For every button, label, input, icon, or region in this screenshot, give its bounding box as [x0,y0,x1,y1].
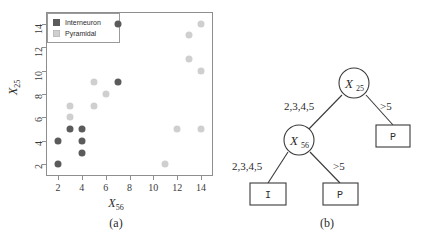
scatter-point [198,126,205,133]
scatter-point [186,55,193,62]
x-tick [106,176,107,180]
y-tick-label: 2 [33,164,44,169]
figure-container: X25 2468101214 2468101214 X56 Interneuro… [0,0,425,239]
scatter-point [78,137,85,144]
legend-item-pyramidal: Pyramidal [51,28,116,39]
tree-node-root-sub: 25 [356,84,364,93]
tree-node-root [339,68,369,98]
scatter-point [186,32,193,39]
edge-label-n2-right: >5 [333,160,345,172]
x-tick-label: 10 [148,182,158,193]
x-axis: 2468101214 [46,176,213,182]
legend-label: Interneuron [65,19,101,26]
scatter-point [66,126,73,133]
scatter-point [198,67,205,74]
edge-n2-to-leaf-i [268,152,288,183]
y-tick-label: 8 [33,94,44,99]
scatter-point [162,161,169,168]
x-tick-label: 12 [172,182,182,193]
x-axis-title: X56 [108,196,123,212]
legend-swatch-icon [53,30,60,37]
y-tick-label: 14 [33,24,44,34]
scatter-point [66,114,73,121]
scatter-point [114,20,121,27]
x-tick-label: 6 [103,182,108,193]
scatter-point [78,126,85,133]
scatter-point [198,20,205,27]
scatter-point [66,102,73,109]
scatter-point [54,161,61,168]
y-tick-label: 6 [33,117,44,122]
decision-tree-svg: X 25 X 56 P I P 2,3,4,5 >5 2,3,4,5 >5 [230,0,425,215]
panel-a-caption: (a) [109,216,122,231]
x-tick-label: 8 [127,182,132,193]
edge-label-root-right: >5 [380,100,392,112]
x-tick [130,176,131,180]
tree-node-n2 [284,125,314,155]
x-tick-label: 14 [196,182,206,193]
panel-b-tree: X 25 X 56 P I P 2,3,4,5 >5 2,3,4,5 >5 (b… [230,0,425,239]
tree-leaf-i-label: I [265,190,271,201]
y-axis-title: X25 [6,80,22,95]
y-tick-label: 4 [33,141,44,146]
tree-node-root-label: X [344,76,354,91]
tree-leaf-p-right-label: P [390,132,396,143]
edge-label-n2-left: 2,3,4,5 [232,160,263,172]
edge-label-root-left: 2,3,4,5 [284,100,315,112]
x-tick [177,176,178,180]
panel-a-scatter: X25 2468101214 2468101214 X56 Interneuro… [0,0,230,239]
y-tick-label: 12 [33,47,44,57]
x-tick [153,176,154,180]
scatter-point [54,137,61,144]
x-tick [58,176,59,180]
x-tick [82,176,83,180]
legend-item-interneuron: Interneuron [51,17,116,28]
scatter-point [114,79,121,86]
x-tick-label: 2 [55,182,60,193]
tree-node-n2-sub: 56 [301,141,309,150]
scatter-point [102,91,109,98]
y-tick-label: 10 [33,71,44,81]
tree-node-n2-label: X [289,133,299,148]
x-tick [201,176,202,180]
legend-label: Pyramidal [65,30,96,37]
tree-leaf-p-mid-label: P [337,190,343,201]
scatter-point [78,149,85,156]
x-tick-label: 4 [79,182,84,193]
panel-b-caption: (b) [320,216,334,231]
scatter-point [90,79,97,86]
legend-swatch-icon [53,19,60,26]
scatter-point [174,126,181,133]
legend: Interneuron Pyramidal [47,13,120,43]
scatter-point [90,102,97,109]
